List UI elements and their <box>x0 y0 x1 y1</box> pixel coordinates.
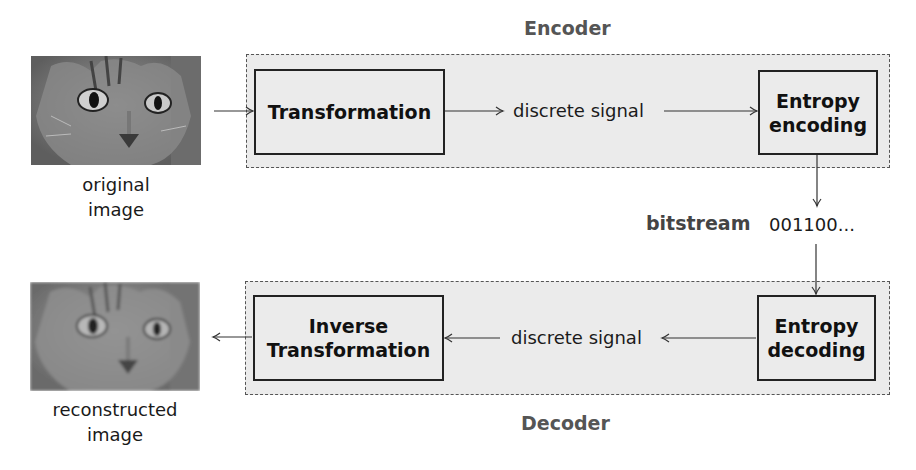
diagram-arrows <box>0 0 916 470</box>
